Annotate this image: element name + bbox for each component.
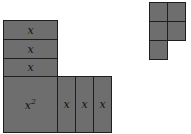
x-tile-horizontal: x xyxy=(3,39,58,59)
x-tile-vertical: x xyxy=(75,76,94,133)
unit-tile xyxy=(149,21,168,41)
unit-tile xyxy=(149,2,168,22)
x-label: x xyxy=(27,43,33,56)
x-label: x xyxy=(81,98,87,111)
x-label: x xyxy=(27,61,33,74)
x-squared-label: x2 xyxy=(25,97,36,112)
x-tile-horizontal: x xyxy=(3,20,58,40)
unit-tile xyxy=(149,40,168,60)
x-tile-vertical: x xyxy=(57,76,76,133)
x-tile-vertical: x xyxy=(93,76,112,133)
unit-tile xyxy=(167,2,186,22)
x-tile-horizontal: x xyxy=(3,58,58,77)
x-label: x xyxy=(63,98,69,111)
unit-tile xyxy=(167,21,186,41)
x-squared-tile: x2 xyxy=(3,76,58,133)
x-label: x xyxy=(99,98,105,111)
x-label: x xyxy=(27,24,33,37)
